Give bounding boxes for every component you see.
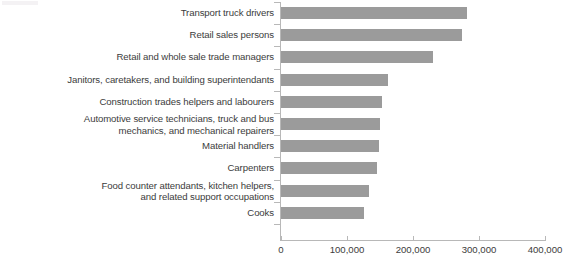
y-axis-tick xyxy=(274,202,280,203)
y-axis-tick xyxy=(274,157,280,158)
bar-row: Cooks xyxy=(0,202,568,224)
bar xyxy=(281,118,380,130)
y-axis-tick xyxy=(274,113,280,114)
category-label: Transport truck drivers xyxy=(181,7,274,18)
bar-row: Retail sales persons xyxy=(0,24,568,46)
category-label: Retail and whole sale trade managers xyxy=(117,52,274,63)
x-axis-tick-label: 200,000 xyxy=(396,244,431,255)
bar-rows: Transport truck driversRetail sales pers… xyxy=(0,0,568,240)
bar xyxy=(281,185,369,197)
bar-row: Retail and whole sale trade managers xyxy=(0,46,568,68)
x-axis-tick xyxy=(545,236,546,241)
y-axis-tick xyxy=(274,135,280,136)
bar-row: Carpenters xyxy=(0,157,568,179)
bar-row: Food counter attendants, kitchen helpers… xyxy=(0,180,568,202)
y-axis-tick xyxy=(274,46,280,47)
bar-row: Automotive service technicians, truck an… xyxy=(0,113,568,135)
category-label: Construction trades helpers and labourer… xyxy=(99,96,274,107)
bar xyxy=(281,96,382,108)
category-label: Retail sales persons xyxy=(190,30,274,41)
bar-row: Material handlers xyxy=(0,135,568,157)
x-axis-tick xyxy=(347,236,348,241)
bar xyxy=(281,29,462,41)
x-axis-tick-label: 100,000 xyxy=(330,244,365,255)
category-label: Material handlers xyxy=(202,141,274,152)
x-axis-tick-label: 300,000 xyxy=(462,244,497,255)
y-axis-tick xyxy=(274,69,280,70)
category-label: Food counter attendants, kitchen helpers… xyxy=(102,179,274,202)
category-label: Janitors, caretakers, and building super… xyxy=(67,74,274,85)
bar xyxy=(281,51,433,63)
x-axis-tick xyxy=(479,236,480,241)
bar-row: Janitors, caretakers, and building super… xyxy=(0,69,568,91)
category-label: Carpenters xyxy=(228,163,274,174)
bar xyxy=(281,7,467,19)
bar-chart: Transport truck driversRetail sales pers… xyxy=(0,0,568,263)
x-axis-tick-label: 0 xyxy=(278,244,283,255)
bar-row: Construction trades helpers and labourer… xyxy=(0,91,568,113)
bar xyxy=(281,140,379,152)
x-axis-tick xyxy=(413,236,414,241)
bar xyxy=(281,162,377,174)
bar xyxy=(281,74,388,86)
x-axis-ticks: 0100,000200,000300,000400,000 xyxy=(0,240,568,263)
y-axis-tick xyxy=(274,24,280,25)
category-label: Automotive service technicians, truck an… xyxy=(84,113,274,136)
y-axis-tick xyxy=(274,180,280,181)
y-axis-tick xyxy=(274,91,280,92)
category-label: Cooks xyxy=(247,207,274,218)
x-axis-tick-label: 400,000 xyxy=(528,244,563,255)
bar-row: Transport truck drivers xyxy=(0,2,568,24)
y-axis-tick xyxy=(274,224,280,225)
y-axis-tick xyxy=(274,2,280,3)
bar xyxy=(281,207,364,219)
x-axis-tick xyxy=(281,236,282,241)
